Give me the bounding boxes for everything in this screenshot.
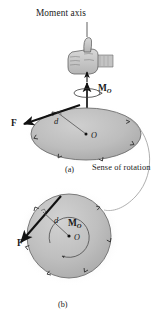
origin-label-b: O: [74, 234, 80, 242]
origin-point-b: [67, 234, 70, 237]
moment-vector-label-a: MO: [98, 84, 112, 94]
moment-arm-label-b: d: [54, 216, 58, 225]
moment-arm-label-a: d: [54, 117, 58, 126]
moment-vector-letter-b: M: [68, 218, 77, 228]
panel-a-graphics: [24, 22, 148, 164]
sense-of-rotation-label: Sense of rotation: [92, 164, 150, 172]
force-vector-label-b: F: [17, 239, 23, 248]
figure-graphics: [0, 0, 164, 318]
moment-vector-subscript-a: O: [107, 87, 112, 94]
moment-axis-figure: Moment axis MO F d O (a) Sense of rotati…: [0, 0, 164, 318]
figure-title-label: Moment axis: [36, 9, 86, 18]
caption-b: (b): [58, 301, 68, 309]
moment-vector-label-b: MO: [68, 219, 82, 229]
origin-label-a: O: [91, 132, 97, 140]
thumbs-up-hand-icon: [68, 38, 113, 74]
moment-vector-letter-a: M: [98, 83, 107, 93]
force-vector-label-a: F: [11, 119, 17, 128]
moment-vector-subscript-b: O: [77, 222, 82, 229]
origin-point-a: [85, 133, 88, 136]
panel-b-graphics: [17, 186, 121, 286]
caption-a: (a): [65, 166, 74, 174]
